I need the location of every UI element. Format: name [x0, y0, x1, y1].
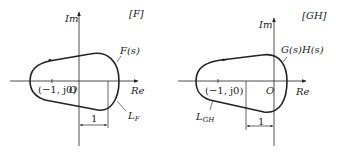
im-label: Im [64, 13, 78, 24]
contour-label: LGH [195, 111, 215, 124]
re-label: Re [295, 86, 310, 97]
curve-label: F(s) [119, 45, 140, 56]
leader-curve-label [283, 57, 287, 62]
panel-tag: [F] [129, 8, 144, 19]
unit-label: 1 [258, 116, 264, 127]
leader-contour-label [210, 100, 213, 110]
contour-lf [30, 53, 119, 110]
point-label: (−1, j0) [205, 85, 243, 96]
nyquist-diagram: Im [F] F(s) Re (−1, j0) O 1 LF Im [GH] G… [0, 0, 339, 156]
panel-gh: Im [GH] G(s)H(s) Re (−1, j0) O 1 LGH [178, 10, 327, 146]
im-label: Im [258, 19, 272, 30]
origin-label: O [266, 85, 274, 96]
curve-label: G(s)H(s) [281, 44, 324, 55]
contour-label: LF [127, 110, 141, 123]
panel-tag: [GH] [302, 10, 327, 21]
contour-lgh [196, 55, 287, 113]
leader-curve-label [117, 56, 121, 62]
re-label: Re [130, 85, 145, 96]
unit-label: 1 [91, 113, 97, 124]
panel-f: Im [F] F(s) Re (−1, j0) O 1 LF [10, 8, 145, 146]
leader-contour-label [117, 101, 126, 111]
origin-label: O [69, 84, 77, 95]
